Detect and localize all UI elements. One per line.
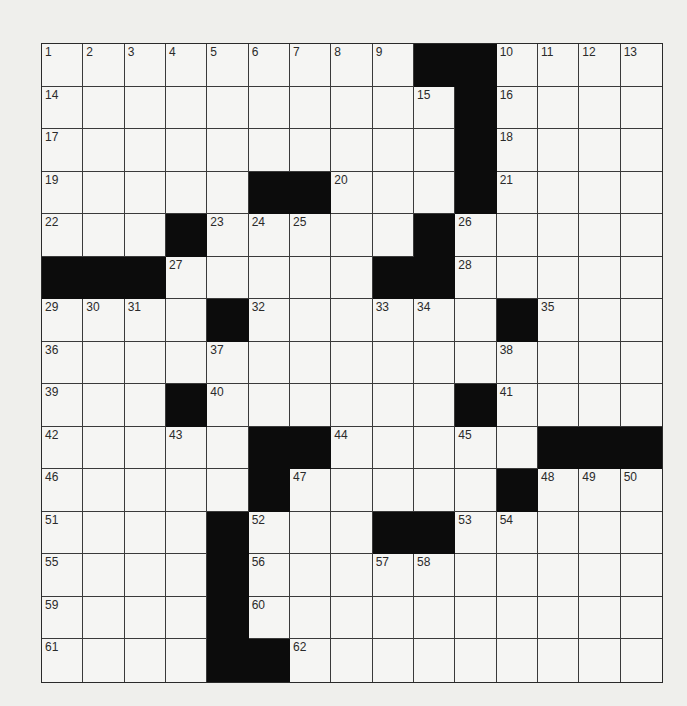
grid-cell[interactable]: 31	[125, 299, 166, 342]
grid-cell[interactable]	[290, 342, 331, 385]
grid-cell[interactable]	[83, 172, 124, 215]
grid-cell[interactable]	[83, 639, 124, 682]
grid-cell[interactable]: 57	[373, 554, 414, 597]
grid-cell[interactable]	[414, 597, 455, 640]
grid-cell[interactable]: 12	[579, 44, 620, 87]
grid-cell[interactable]	[331, 214, 372, 257]
grid-cell[interactable]	[207, 87, 248, 130]
grid-cell[interactable]	[621, 172, 662, 215]
grid-cell[interactable]	[166, 512, 207, 555]
grid-cell[interactable]: 42	[42, 427, 83, 470]
grid-cell[interactable]	[125, 469, 166, 512]
grid-cell[interactable]	[290, 512, 331, 555]
grid-cell[interactable]: 30	[83, 299, 124, 342]
grid-cell[interactable]: 2	[83, 44, 124, 87]
grid-cell[interactable]: 51	[42, 512, 83, 555]
grid-cell[interactable]	[83, 384, 124, 427]
grid-cell[interactable]	[290, 554, 331, 597]
grid-cell[interactable]: 33	[373, 299, 414, 342]
grid-cell[interactable]	[621, 639, 662, 682]
grid-cell[interactable]: 21	[497, 172, 538, 215]
grid-cell[interactable]	[166, 597, 207, 640]
grid-cell[interactable]: 6	[249, 44, 290, 87]
grid-cell[interactable]	[497, 554, 538, 597]
grid-cell[interactable]: 15	[414, 87, 455, 130]
grid-cell[interactable]: 50	[621, 469, 662, 512]
grid-cell[interactable]	[538, 384, 579, 427]
grid-cell[interactable]: 28	[455, 257, 496, 300]
grid-cell[interactable]: 7	[290, 44, 331, 87]
grid-cell[interactable]: 23	[207, 214, 248, 257]
grid-cell[interactable]: 52	[249, 512, 290, 555]
grid-cell[interactable]	[290, 87, 331, 130]
grid-cell[interactable]	[290, 257, 331, 300]
grid-cell[interactable]: 44	[331, 427, 372, 470]
grid-cell[interactable]	[621, 214, 662, 257]
grid-cell[interactable]: 36	[42, 342, 83, 385]
grid-cell[interactable]	[373, 172, 414, 215]
grid-cell[interactable]	[579, 257, 620, 300]
grid-cell[interactable]	[373, 639, 414, 682]
grid-cell[interactable]	[125, 427, 166, 470]
grid-cell[interactable]	[621, 129, 662, 172]
grid-cell[interactable]: 9	[373, 44, 414, 87]
grid-cell[interactable]	[249, 342, 290, 385]
grid-cell[interactable]: 60	[249, 597, 290, 640]
grid-cell[interactable]	[125, 597, 166, 640]
grid-cell[interactable]	[538, 172, 579, 215]
grid-cell[interactable]	[538, 257, 579, 300]
grid-cell[interactable]: 55	[42, 554, 83, 597]
grid-cell[interactable]: 61	[42, 639, 83, 682]
grid-cell[interactable]	[83, 512, 124, 555]
grid-cell[interactable]	[538, 129, 579, 172]
grid-cell[interactable]: 22	[42, 214, 83, 257]
grid-cell[interactable]	[538, 342, 579, 385]
grid-cell[interactable]: 8	[331, 44, 372, 87]
grid-cell[interactable]	[414, 469, 455, 512]
grid-cell[interactable]	[166, 554, 207, 597]
grid-cell[interactable]	[621, 384, 662, 427]
grid-cell[interactable]: 16	[497, 87, 538, 130]
grid-cell[interactable]	[290, 597, 331, 640]
grid-cell[interactable]	[125, 87, 166, 130]
grid-cell[interactable]: 11	[538, 44, 579, 87]
grid-cell[interactable]	[497, 597, 538, 640]
grid-cell[interactable]	[166, 172, 207, 215]
grid-cell[interactable]	[497, 427, 538, 470]
grid-cell[interactable]: 39	[42, 384, 83, 427]
grid-cell[interactable]	[166, 469, 207, 512]
grid-cell[interactable]	[373, 597, 414, 640]
grid-cell[interactable]: 47	[290, 469, 331, 512]
grid-cell[interactable]	[249, 384, 290, 427]
grid-cell[interactable]	[455, 469, 496, 512]
grid-cell[interactable]	[290, 384, 331, 427]
grid-cell[interactable]	[290, 129, 331, 172]
grid-cell[interactable]	[166, 299, 207, 342]
grid-cell[interactable]	[579, 87, 620, 130]
grid-cell[interactable]: 59	[42, 597, 83, 640]
grid-cell[interactable]: 34	[414, 299, 455, 342]
grid-cell[interactable]	[331, 87, 372, 130]
grid-cell[interactable]	[83, 597, 124, 640]
grid-cell[interactable]	[331, 512, 372, 555]
grid-cell[interactable]	[579, 214, 620, 257]
grid-cell[interactable]: 58	[414, 554, 455, 597]
grid-cell[interactable]	[621, 87, 662, 130]
grid-cell[interactable]	[125, 172, 166, 215]
grid-cell[interactable]: 19	[42, 172, 83, 215]
grid-cell[interactable]	[373, 469, 414, 512]
grid-cell[interactable]	[166, 87, 207, 130]
grid-cell[interactable]: 62	[290, 639, 331, 682]
grid-cell[interactable]	[373, 87, 414, 130]
grid-cell[interactable]	[497, 257, 538, 300]
grid-cell[interactable]	[331, 257, 372, 300]
grid-cell[interactable]	[83, 342, 124, 385]
grid-cell[interactable]	[579, 512, 620, 555]
grid-cell[interactable]	[249, 129, 290, 172]
grid-cell[interactable]	[538, 597, 579, 640]
grid-cell[interactable]: 45	[455, 427, 496, 470]
grid-cell[interactable]	[538, 214, 579, 257]
grid-cell[interactable]	[579, 554, 620, 597]
grid-cell[interactable]: 13	[621, 44, 662, 87]
grid-cell[interactable]	[207, 129, 248, 172]
